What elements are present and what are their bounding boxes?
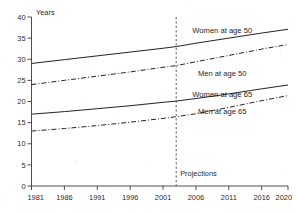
series-label-women-at-age-65: Women at age 65 bbox=[192, 90, 252, 99]
x-tick-label: 2016 bbox=[253, 193, 269, 202]
scan-speck bbox=[59, 21, 60, 22]
scan-speck bbox=[146, 165, 147, 166]
scan-speck bbox=[280, 49, 281, 50]
scan-speck bbox=[22, 54, 23, 55]
scan-speck bbox=[101, 115, 102, 116]
scan-speck bbox=[223, 122, 224, 123]
scan-speck bbox=[126, 198, 127, 199]
scan-speck bbox=[117, 70, 118, 71]
series-label-women-at-age-50: Women at age 50 bbox=[192, 26, 252, 35]
scan-speck bbox=[2, 18, 3, 19]
x-tick-label: 2011 bbox=[221, 193, 237, 202]
scan-speck bbox=[229, 203, 230, 204]
scan-speck bbox=[199, 132, 200, 133]
scan-speck bbox=[213, 152, 214, 153]
scan-speck bbox=[14, 30, 15, 31]
y-axis-title: Years bbox=[36, 8, 55, 17]
scan-speck bbox=[165, 95, 166, 96]
x-tick-label: 1981 bbox=[28, 193, 44, 202]
y-tick-label: 25 bbox=[17, 76, 25, 85]
y-tick-label: 30 bbox=[17, 55, 25, 64]
scan-speck bbox=[231, 157, 232, 158]
scan-speck bbox=[63, 12, 64, 13]
scan-speck bbox=[254, 20, 255, 21]
scan-speck bbox=[186, 204, 187, 205]
scan-speck bbox=[290, 104, 291, 105]
y-tick-label: 35 bbox=[17, 34, 25, 43]
scan-speck bbox=[156, 186, 157, 187]
scan-speck bbox=[0, 200, 1, 201]
scan-speck bbox=[80, 67, 81, 68]
y-tick-label: 5 bbox=[21, 161, 25, 170]
scan-speck bbox=[274, 36, 275, 37]
scan-speck bbox=[252, 28, 253, 29]
x-tick-label: 1991 bbox=[89, 193, 105, 202]
scan-speck bbox=[289, 85, 290, 86]
y-tick-label: 10 bbox=[17, 139, 25, 148]
scan-speck bbox=[154, 129, 155, 130]
scan-speck bbox=[117, 42, 118, 43]
scan-speck bbox=[39, 45, 40, 46]
life-expectancy-line-chart: 0510152025303540 19811986199119962001200… bbox=[0, 0, 297, 212]
scan-speck bbox=[259, 163, 260, 164]
scan-speck bbox=[285, 110, 286, 111]
scan-speck bbox=[215, 138, 216, 139]
scan-speck bbox=[118, 115, 119, 116]
scan-speck bbox=[75, 161, 76, 162]
scan-speck bbox=[7, 62, 8, 63]
scan-speck bbox=[237, 163, 238, 164]
scan-speck bbox=[8, 209, 9, 210]
scan-speck bbox=[192, 120, 193, 121]
scan-speck bbox=[204, 197, 205, 198]
scan-speck bbox=[60, 129, 61, 130]
y-tick-label: 40 bbox=[17, 13, 25, 22]
y-tick-label: 0 bbox=[21, 182, 25, 191]
scan-speck bbox=[285, 175, 286, 176]
scan-speck bbox=[78, 191, 79, 192]
y-tick-label: 20 bbox=[17, 97, 25, 106]
scan-speck bbox=[269, 5, 270, 6]
chart-container: 0510152025303540 19811986199119962001200… bbox=[0, 0, 297, 212]
scan-speck bbox=[57, 6, 58, 7]
scan-speck bbox=[128, 52, 129, 53]
x-tick-label: 2001 bbox=[155, 193, 171, 202]
scan-speck bbox=[2, 145, 3, 146]
scan-speck bbox=[12, 68, 13, 69]
x-tick-label: 2006 bbox=[188, 193, 204, 202]
x-tick-label: 1996 bbox=[122, 193, 138, 202]
scan-speck bbox=[131, 108, 132, 109]
scan-speck bbox=[178, 77, 179, 78]
x-tick-label: 2020 bbox=[276, 193, 292, 202]
scan-speck bbox=[182, 72, 183, 73]
scan-speck bbox=[219, 22, 220, 23]
scan-speck bbox=[272, 95, 273, 96]
scan-speck bbox=[277, 18, 278, 19]
series-label-men-at-age-50: Men at age 50 bbox=[198, 69, 247, 78]
scan-speck bbox=[190, 4, 191, 5]
scan-speck bbox=[41, 107, 42, 108]
scan-speck bbox=[285, 58, 286, 59]
y-tick-label: 15 bbox=[17, 118, 25, 127]
x-tick-label: 1986 bbox=[56, 193, 72, 202]
scan-speck bbox=[73, 106, 74, 107]
chart-background bbox=[0, 0, 297, 212]
projections-label: Projections bbox=[180, 169, 217, 178]
scan-speck bbox=[260, 77, 261, 78]
scan-speck bbox=[291, 100, 292, 101]
scan-speck bbox=[280, 64, 281, 65]
scan-speck bbox=[42, 20, 43, 21]
series-label-men-at-age-65: Men at age 65 bbox=[198, 107, 247, 116]
scan-speck bbox=[102, 57, 103, 58]
scan-speck bbox=[260, 96, 261, 97]
scan-speck bbox=[288, 24, 289, 25]
scan-speck bbox=[89, 70, 90, 71]
scan-speck bbox=[109, 106, 110, 107]
scan-speck bbox=[200, 174, 201, 175]
